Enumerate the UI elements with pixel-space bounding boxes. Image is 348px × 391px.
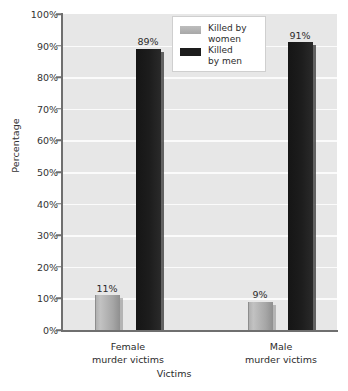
legend-item-killed-by-women[interactable]: Killed by women <box>180 23 247 44</box>
x-axis-title: Victims <box>0 368 348 379</box>
y-tick-label: 10% <box>18 293 58 304</box>
bar-male-killed-by-women[interactable] <box>248 302 273 330</box>
y-tick-label: 40% <box>18 198 58 209</box>
x-category-label-female: Female murder victims <box>92 341 164 366</box>
y-tick-label: 0% <box>18 325 58 336</box>
legend-item-label: Killed by women <box>208 23 247 44</box>
y-tick-label: 70% <box>18 103 58 114</box>
x-axis-line <box>61 330 338 332</box>
legend-item-killed-by-men[interactable]: Killed by men <box>180 45 242 66</box>
bar-female-killed-by-women[interactable] <box>95 295 120 330</box>
y-tick-label: 100% <box>18 9 58 20</box>
legend-swatch-light-icon <box>180 26 201 34</box>
y-tick-label: 90% <box>18 40 58 51</box>
bar-chart: Percentage 100% 90% 80% 70% 60% 50% 40% … <box>0 0 348 391</box>
x-category-line2: murder victims <box>245 354 317 367</box>
legend: Killed by women Killed by men <box>172 16 266 72</box>
x-category-line2: murder victims <box>92 354 164 367</box>
y-axis-tick-labels: 100% 90% 80% 70% 60% 50% 40% 30% 20% 10%… <box>18 14 58 330</box>
y-tick-label: 80% <box>18 72 58 83</box>
bar-value-label: 11% <box>96 283 117 294</box>
legend-swatch-dark-icon <box>180 48 201 56</box>
y-axis-line <box>61 13 63 331</box>
bar-female-killed-by-men[interactable] <box>136 49 161 330</box>
x-category-line1: Female <box>92 341 164 354</box>
bar-male-killed-by-men[interactable] <box>288 42 313 330</box>
y-tick-label: 20% <box>18 261 58 272</box>
x-category-label-male: Male murder victims <box>245 341 317 366</box>
x-category-line1: Male <box>245 341 317 354</box>
y-tick-label: 50% <box>18 167 58 178</box>
legend-item-label: Killed by men <box>208 45 242 66</box>
y-tick-label: 30% <box>18 230 58 241</box>
bar-value-label: 9% <box>252 289 267 300</box>
y-tick-label: 60% <box>18 135 58 146</box>
bar-value-label: 89% <box>137 36 158 47</box>
bar-value-label: 91% <box>289 30 310 41</box>
